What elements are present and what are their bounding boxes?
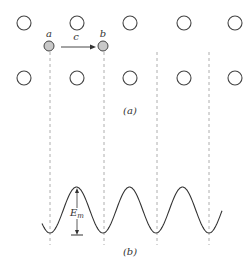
caption-a: (a) bbox=[123, 105, 137, 116]
lattice-site bbox=[177, 71, 191, 85]
barrier-label: Em bbox=[69, 207, 84, 220]
lattice-site bbox=[228, 71, 242, 85]
lattice-site bbox=[228, 16, 242, 30]
lattice-site bbox=[123, 71, 137, 85]
lattice-site bbox=[70, 71, 84, 85]
lattice-site bbox=[123, 16, 137, 30]
energy-curve bbox=[42, 187, 222, 233]
caption-b: (b) bbox=[123, 246, 137, 257]
atom-label-a: a bbox=[46, 28, 52, 39]
atom-label-b: b bbox=[100, 28, 106, 39]
jump-arrow: c bbox=[61, 31, 96, 50]
lattice-site bbox=[177, 16, 191, 30]
atom-a bbox=[44, 41, 54, 51]
jump-label-c: c bbox=[73, 31, 79, 42]
lattice-site bbox=[70, 16, 84, 30]
diffusion-diagram: ab c (a) Em (b) bbox=[0, 0, 252, 266]
atom-b bbox=[98, 41, 108, 51]
lattice-site bbox=[17, 71, 31, 85]
barrier-height-indicator: Em bbox=[69, 188, 84, 235]
lattice-site bbox=[17, 16, 31, 30]
